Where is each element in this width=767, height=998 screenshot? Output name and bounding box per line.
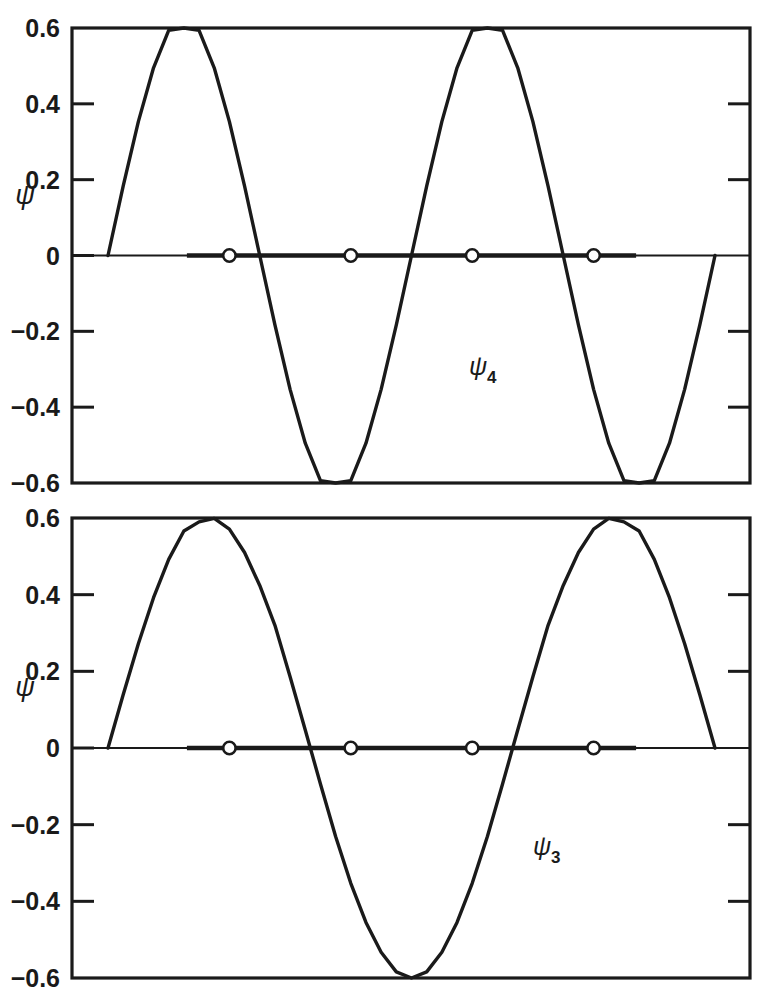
lattice-node-marker <box>345 249 357 261</box>
lattice-node-marker <box>466 742 478 754</box>
lattice-node-marker <box>223 742 235 754</box>
y-tick-label: −0.6 <box>11 964 60 992</box>
y-axis-title: ψ <box>15 672 35 702</box>
y-tick-label: 0 <box>46 734 60 762</box>
y-tick-label: 0.6 <box>25 14 60 42</box>
lattice-node-marker <box>466 249 478 261</box>
y-tick-label: −0.6 <box>11 469 60 497</box>
y-tick-label: 0 <box>46 242 60 270</box>
curve-label-psi4: ψ <box>469 352 487 380</box>
curve-label-psi3: ψ <box>533 832 551 860</box>
y-tick-label: 0.4 <box>25 581 60 609</box>
lattice-node-marker <box>345 742 357 754</box>
y-tick-label: −0.2 <box>11 811 60 839</box>
lattice-node-marker <box>587 742 599 754</box>
figure-canvas: 0.60.40.20−0.2−0.4−0.6ψψ40.60.40.20−0.2−… <box>0 0 767 998</box>
y-tick-label: −0.4 <box>11 393 60 421</box>
y-tick-label: −0.4 <box>11 887 60 915</box>
y-axis-title: ψ <box>15 180 35 210</box>
panel-psi3: 0.60.40.20−0.2−0.4−0.6ψψ3 <box>11 504 750 992</box>
y-tick-label: −0.2 <box>11 317 60 345</box>
lattice-node-marker <box>223 249 235 261</box>
y-tick-label: 0.4 <box>25 90 60 118</box>
curve-label-subscript-psi4: 4 <box>487 368 497 387</box>
lattice-node-marker <box>587 249 599 261</box>
curve-label-subscript-psi3: 3 <box>551 848 560 867</box>
wavefunction-figure: 0.60.40.20−0.2−0.4−0.6ψψ40.60.40.20−0.2−… <box>0 0 767 998</box>
panel-psi4: 0.60.40.20−0.2−0.4−0.6ψψ4 <box>11 14 750 497</box>
y-tick-label: 0.6 <box>25 504 60 532</box>
